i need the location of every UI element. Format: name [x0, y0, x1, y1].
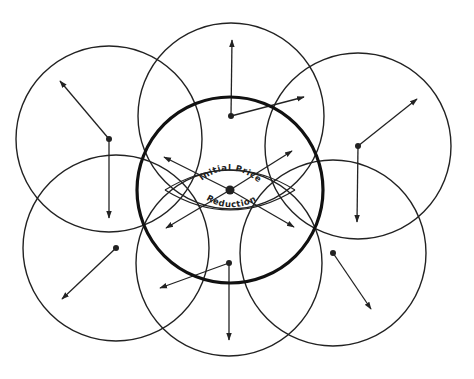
diagram-canvas: Initial Price Reduction [0, 0, 474, 379]
vector-arrow-icon [60, 81, 109, 139]
vector-arrow-icon [231, 40, 232, 116]
circle-top-right [265, 53, 451, 239]
center-dot [226, 260, 232, 266]
circle-top-left [16, 46, 202, 232]
vector-arrow-icon [333, 253, 371, 309]
vector-arrow-icon [62, 248, 116, 299]
center-dot [228, 113, 234, 119]
center-dot [330, 250, 336, 256]
center-dot [355, 143, 361, 149]
center-dot [113, 245, 119, 251]
central-dot [226, 186, 235, 195]
circle-top [138, 23, 324, 209]
price-reduction-diagram: Initial Price Reduction [0, 0, 474, 379]
label-initial-price: Initial Price [197, 162, 264, 184]
vector-arrow-icon [358, 99, 417, 146]
central-circle-group: Initial Price Reduction [137, 97, 323, 283]
circle-bottom-right [240, 160, 426, 346]
center-dot [106, 136, 112, 142]
vector-arrow-icon [357, 146, 358, 222]
